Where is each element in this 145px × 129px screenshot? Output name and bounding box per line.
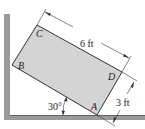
vertical-wall: [4, 14, 10, 117]
rectangular-block: [12, 25, 122, 115]
dimension-6ft-extension-left: [37, 9, 46, 25]
diagram-svg: 6 ft 3 ft 30° C B D A: [0, 0, 145, 129]
diagram-canvas: 6 ft 3 ft 30° C B D A: [0, 0, 145, 129]
point-label-c: C: [36, 28, 43, 39]
dimension-3ft-extension-top: [122, 72, 137, 81]
point-label-d: D: [107, 71, 116, 82]
point-label-a: A: [90, 101, 98, 112]
arrowhead-icon: [45, 12, 51, 16]
dimension-6ft-extension-right: [122, 56, 131, 72]
point-label-b: B: [18, 60, 24, 71]
arrowhead-icon: [62, 111, 66, 116]
arrowhead-icon: [123, 54, 129, 58]
angle-label: 30°: [48, 101, 62, 112]
dimension-6ft-label: 6 ft: [80, 38, 94, 49]
dimension-3ft-label: 3 ft: [116, 97, 130, 108]
